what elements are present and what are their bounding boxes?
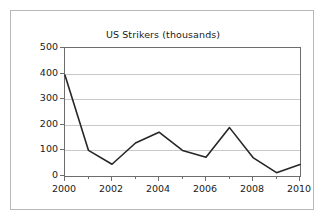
x-axis-tick-label: 2010 (279, 183, 319, 194)
y-axis-tick-label: 500 (18, 42, 58, 52)
y-axis-tick-label: 400 (18, 68, 58, 78)
x-axis-tick-label: 2006 (185, 183, 225, 194)
plot-area (64, 47, 301, 177)
x-axis-tick-label: 2004 (138, 183, 178, 194)
y-axis-tick-label: 200 (18, 119, 58, 129)
chart-figure: US Strikers (thousands) 0100200300400500… (10, 10, 314, 210)
x-axis-tick-label: 2000 (44, 183, 84, 194)
y-axis-tick-label: 100 (18, 144, 58, 154)
data-series-line (65, 48, 300, 176)
x-axis-tick-label: 2008 (232, 183, 272, 194)
y-axis-tick-label: 300 (18, 93, 58, 103)
chart-title: US Strikers (thousands) (11, 29, 315, 40)
y-axis-tick-label: 0 (18, 170, 58, 180)
x-axis-tick-label: 2002 (91, 183, 131, 194)
